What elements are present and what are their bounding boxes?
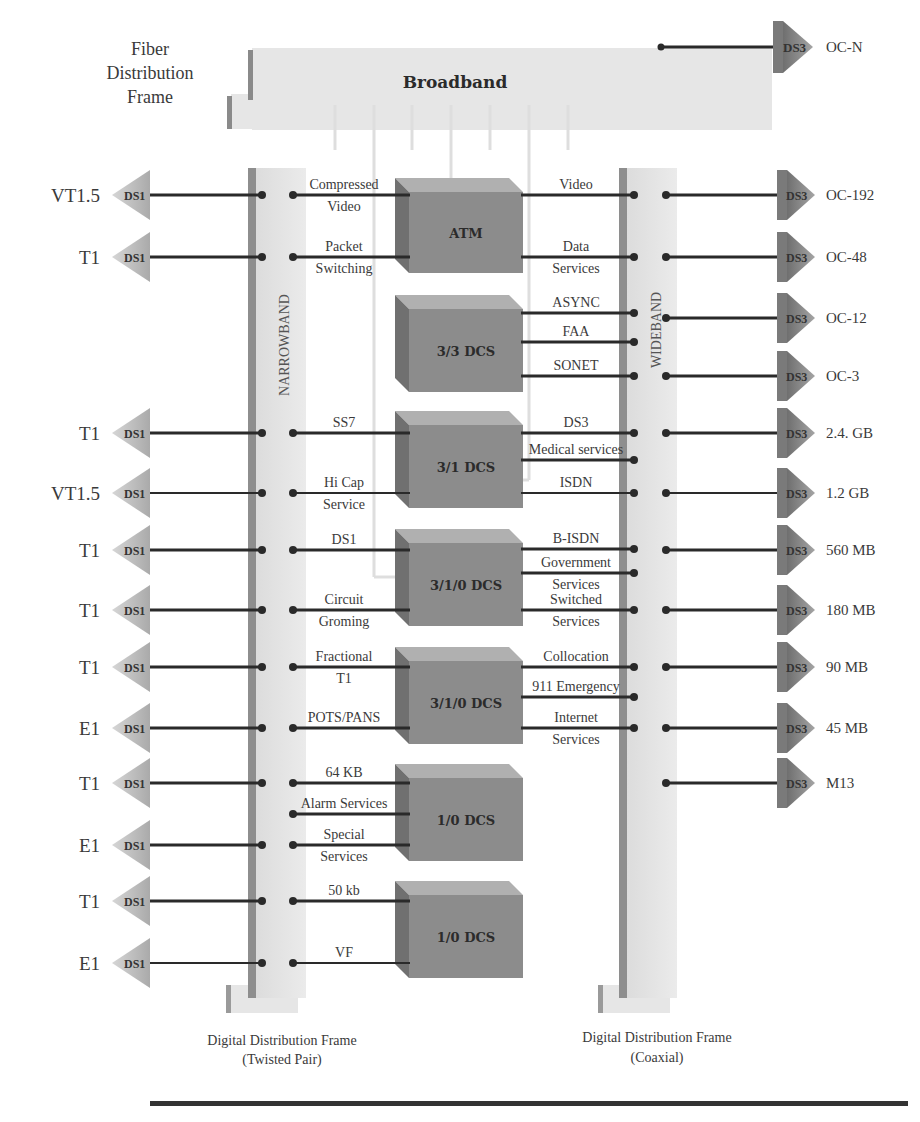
broadband-label: Broadband: [403, 72, 508, 92]
port-label: 90 MB: [826, 659, 868, 675]
port-label: 45 MB: [826, 720, 868, 736]
narrowband-label: NARROWBAND: [277, 294, 292, 396]
port-label: E1: [79, 953, 100, 974]
left-service: Alarm Services: [301, 796, 388, 811]
dcs-box-label: 3/1 DCS: [437, 460, 495, 475]
left-service: SS7: [333, 415, 356, 430]
port-label: T1: [79, 247, 100, 268]
right-service: Medical services: [529, 442, 623, 457]
port-tag: DS1: [124, 895, 145, 909]
right-port: DS345 MB: [777, 703, 868, 753]
left-port: DS1T1: [79, 876, 150, 926]
svg-text:(Twisted Pair): (Twisted Pair): [242, 1052, 322, 1068]
port-label: M13: [826, 775, 854, 791]
port-label: T1: [79, 657, 100, 678]
dcs-box-label: 1/0 DCS: [437, 813, 495, 828]
broadband-output-tag: DS3: [783, 40, 807, 55]
broadband-output-label: OC-N: [826, 39, 863, 55]
service-label: FAA: [563, 324, 591, 339]
left-service: VF: [335, 945, 353, 960]
port-tag: DS3: [786, 312, 807, 326]
service-label: 911 Emergency: [532, 679, 619, 694]
dcs-box: 1/0 DCS: [395, 764, 523, 861]
port-tag: DS1: [124, 544, 145, 558]
port-label: T1: [79, 423, 100, 444]
service-label: T1: [336, 671, 352, 686]
right-port: DS3OC-48: [777, 232, 867, 282]
port-label: 560 MB: [826, 542, 876, 558]
service-label: Services: [552, 732, 599, 747]
port-label: VT1.5: [51, 185, 100, 206]
port-tag: DS1: [124, 427, 145, 441]
left-port: DS1E1: [79, 820, 150, 870]
port-tag: DS3: [786, 604, 807, 618]
port-tag: DS1: [124, 189, 145, 203]
svg-text:Distribution: Distribution: [106, 63, 193, 83]
svg-text:(Coaxial): (Coaxial): [631, 1050, 684, 1066]
service-label: Service: [323, 497, 365, 512]
port-label: OC-192: [826, 187, 874, 203]
left-service: DS1: [332, 532, 357, 547]
left-port: DS1E1: [79, 938, 150, 988]
port-tag: DS1: [124, 839, 145, 853]
service-label: Alarm Services: [301, 796, 388, 811]
port-label: OC-12: [826, 310, 867, 326]
wideband-frame-caption: Digital Distribution Frame (Coaxial): [582, 1030, 731, 1066]
dcs-box-label: 3/3 DCS: [437, 344, 495, 359]
right-service: SONET: [553, 358, 599, 373]
port-tag: DS1: [124, 487, 145, 501]
left-port: DS1T1: [79, 758, 150, 808]
left-service: 50 kb: [328, 883, 360, 898]
service-label: Switching: [316, 261, 373, 276]
right-service: ASYNC: [552, 295, 599, 310]
left-port: DS1T1: [79, 408, 150, 458]
service-label: Internet: [554, 710, 598, 725]
left-port: DS1T1: [79, 232, 150, 282]
port-tag: DS3: [786, 722, 807, 736]
service-label: 64 KB: [326, 765, 363, 780]
telecom-distribution-diagram: NARROWBAND WIDEBAND ATM3/3 DCS3/1 DCS3/1…: [0, 0, 920, 1122]
left-ports: DS1VT1.5DS1T1DS1T1DS1VT1.5DS1T1DS1T1DS1T…: [51, 170, 150, 988]
service-label: Fractional: [316, 649, 373, 664]
port-label: 180 MB: [826, 602, 876, 618]
right-service: Collocation: [543, 649, 608, 664]
left-service: 64 KB: [326, 765, 363, 780]
right-port: DS3180 MB: [777, 585, 876, 635]
bottom-rule: [150, 1101, 908, 1106]
dcs-box-label: ATM: [448, 226, 482, 241]
service-label: Collocation: [543, 649, 608, 664]
left-port: DS1T1: [79, 585, 150, 635]
left-port: DS1E1: [79, 703, 150, 753]
right-service: DS3: [564, 415, 589, 430]
port-label: 2.4. GB: [826, 425, 873, 441]
right-service: FAA: [563, 324, 591, 339]
port-label: E1: [79, 835, 100, 856]
dcs-box-label: 3/1/0 DCS: [430, 578, 502, 593]
service-label: ISDN: [560, 475, 593, 490]
service-label: Video: [327, 199, 360, 214]
right-port: DS3560 MB: [777, 525, 876, 575]
right-port: DS3M13: [777, 758, 854, 808]
right-port: DS390 MB: [777, 642, 868, 692]
right-service: Video: [559, 177, 592, 192]
port-tag: DS3: [786, 370, 807, 384]
right-port: DS32.4. GB: [777, 408, 873, 458]
port-label: T1: [79, 773, 100, 794]
dcs-box-label: 1/0 DCS: [437, 930, 495, 945]
port-tag: DS3: [786, 189, 807, 203]
svg-text:Frame: Frame: [127, 87, 173, 107]
port-tag: DS3: [786, 427, 807, 441]
dcs-box-label: 3/1/0 DCS: [430, 696, 502, 711]
port-label: T1: [79, 600, 100, 621]
service-label: Government: [541, 555, 611, 570]
port-tag: DS3: [786, 544, 807, 558]
narrowband-frame: [226, 168, 306, 1013]
port-tag: DS1: [124, 661, 145, 675]
left-service: POTS/PANS: [308, 710, 381, 725]
port-tag: DS1: [124, 604, 145, 618]
right-port: DS31.2 GB: [777, 468, 869, 518]
svg-text:Digital Distribution Frame: Digital Distribution Frame: [582, 1030, 731, 1045]
service-label: ASYNC: [552, 295, 599, 310]
service-label: Packet: [325, 239, 362, 254]
service-label: DS1: [332, 532, 357, 547]
